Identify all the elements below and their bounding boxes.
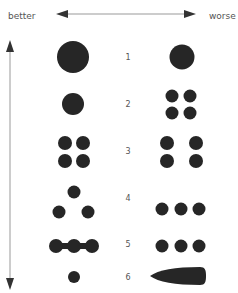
- row-number-1: 1: [125, 53, 130, 62]
- diagram-graphics: [0, 0, 238, 293]
- row-number-2: 2: [125, 100, 130, 109]
- row6-better-circle: [68, 271, 80, 283]
- row-number-3: 3: [125, 147, 130, 156]
- row4-better-triangle-circles: [53, 186, 95, 219]
- row2-better-circle: [62, 93, 84, 115]
- row-number-4: 4: [125, 194, 130, 203]
- row1-better-large-circle: [57, 41, 89, 73]
- vertical-double-arrow-icon: [6, 40, 14, 290]
- row3-worse-spaced-circles: [160, 136, 203, 168]
- row-number-6: 6: [125, 273, 130, 282]
- row4-worse-row-circles: [156, 203, 206, 216]
- row5-better-connected-circles: [49, 239, 99, 253]
- row5-worse-separate-circles: [156, 240, 206, 253]
- horizontal-double-arrow-icon: [56, 10, 196, 18]
- row2-worse-four-circles: [166, 90, 197, 120]
- row6-worse-bullet-shape: [150, 267, 206, 285]
- row3-better-grouped-circles: [58, 136, 90, 168]
- row1-worse-circle: [170, 45, 195, 70]
- row-number-5: 5: [125, 240, 130, 249]
